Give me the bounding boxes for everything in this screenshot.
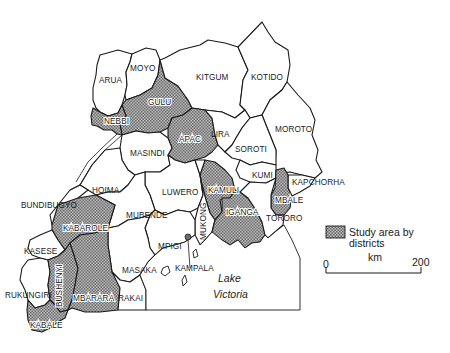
label-kamuli: KAMULI — [208, 186, 239, 195]
label-mukono: MUKONG — [199, 203, 208, 240]
scale-bar: km 0 200 — [323, 251, 430, 273]
label-moyo: MOYO — [130, 64, 155, 73]
label-iganga: IGANGA — [226, 208, 259, 217]
legend: Study area by districts km 0 200 — [323, 226, 430, 273]
scale-bar-line — [326, 267, 421, 273]
label-nebbi: NEBBI — [104, 117, 129, 126]
label-kumi: KUMI — [252, 171, 273, 180]
label-moroto: MOROTO — [275, 125, 312, 134]
label-gulu: GULU — [148, 98, 171, 107]
label-rukungiri: RUKUNGIRI — [5, 291, 52, 300]
label-kampala: KAMPALA — [175, 264, 214, 273]
label-hoima: HOIMA — [92, 186, 120, 195]
label-arua: ARUA — [99, 76, 123, 85]
label-kasese: KASESE — [24, 247, 58, 256]
label-kabale: KABALE — [30, 321, 63, 330]
label-rakai: RAKAI — [118, 294, 143, 303]
label-masindi: MASINDI — [130, 149, 165, 158]
label-mbarara: MBARARA — [73, 294, 115, 303]
scale-max: 200 — [412, 256, 430, 268]
district-rukungiri[interactable] — [20, 258, 50, 308]
label-kapchorha: KAPCHORHA — [292, 178, 345, 187]
label-bushenyi: BUSHENYI — [55, 264, 64, 307]
label-tororo: TORORO — [266, 214, 302, 223]
scale-unit: km — [368, 251, 382, 263]
label-lira: LIRA — [211, 130, 230, 139]
label-soroti: SOROTI — [235, 145, 267, 154]
legend-label-line2: districts — [349, 237, 385, 249]
label-mpigi: MPIGI — [158, 242, 182, 251]
label-bundibugyo: BUNDIBUGYO — [21, 201, 77, 210]
label-masaka: MASAKA — [122, 266, 157, 275]
label-kotido: KOTIDO — [251, 73, 283, 82]
lake-label-line2: Victoria — [213, 288, 248, 300]
label-kitgum: KITGUM — [196, 73, 229, 82]
legend-swatch-study-area — [326, 226, 345, 238]
label-luwero: LUWERO — [162, 188, 199, 197]
label-mbale: MBALE — [275, 196, 304, 205]
lake-label-line1: Lake — [218, 272, 241, 284]
uganda-district-map: ARUA MOYO KITGUM KOTIDO GULU NEBBI APAC … — [0, 0, 450, 353]
label-mubende: MUBENDE — [126, 211, 168, 220]
label-apac: APAC — [179, 135, 201, 144]
label-kabarole: KABAROLE — [63, 224, 108, 233]
